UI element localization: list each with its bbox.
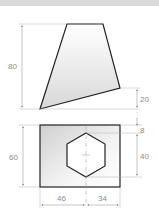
dim-46: 46 [57, 194, 66, 203]
technical-drawing: 80 20 8 40 60 46 34 [0, 0, 159, 222]
dim-8: 8 [140, 126, 145, 135]
dim-20: 20 [140, 95, 149, 104]
dim-80: 80 [8, 62, 17, 71]
dim-60: 60 [9, 153, 18, 162]
dim-34: 34 [98, 194, 107, 203]
dim-40: 40 [140, 152, 149, 161]
top-view-shape [40, 24, 120, 109]
